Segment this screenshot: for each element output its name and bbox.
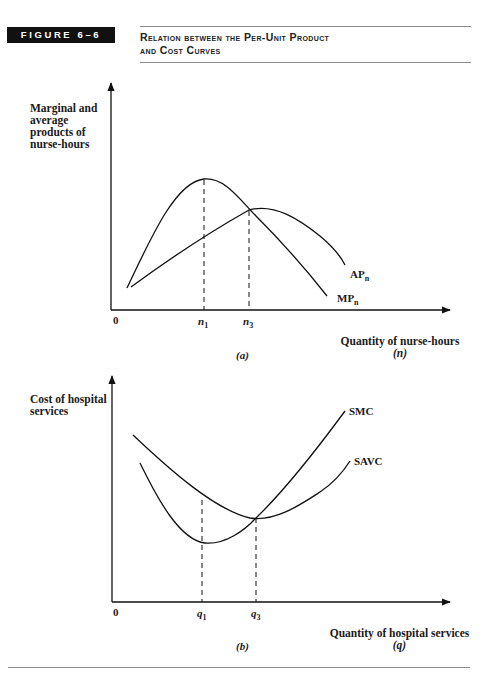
bottom-rule: [8, 667, 470, 668]
ap-curve: [131, 208, 345, 287]
mp-curve: [127, 179, 327, 296]
panel-a-ylabel: Marginal and average products of nurse-h…: [30, 102, 97, 150]
panel-a-tick-n1: n1: [198, 315, 208, 330]
panel-a-label: (a): [236, 349, 249, 361]
panel-a-xlabel: Quantity of nurse-hours (n): [330, 335, 470, 359]
panel-b-xlabel: Quantity of hospital services (q): [322, 627, 477, 651]
mp-curve-label: MPn: [337, 292, 359, 307]
panel-b-guides: [202, 500, 256, 602]
panel-b-label: (b): [236, 640, 249, 652]
panel-a-guides: [204, 180, 249, 310]
smc-curve: [140, 411, 345, 543]
panel-a-origin: 0: [113, 314, 119, 326]
savc-curve-label: SAVC: [354, 455, 383, 467]
panel-a-axes: [111, 83, 450, 310]
smc-curve-label: SMC: [349, 405, 373, 417]
panel-b-tick-q1: q1: [197, 607, 207, 622]
panel-b-tick-q3: q3: [251, 607, 261, 622]
panel-b-origin: 0: [113, 606, 119, 618]
panel-a-tick-n3: n3: [243, 315, 253, 330]
panel-b-axes: [112, 376, 450, 602]
panel-b-ylabel: Cost of hospital services: [30, 393, 107, 417]
ap-curve-label: APn: [350, 268, 369, 283]
